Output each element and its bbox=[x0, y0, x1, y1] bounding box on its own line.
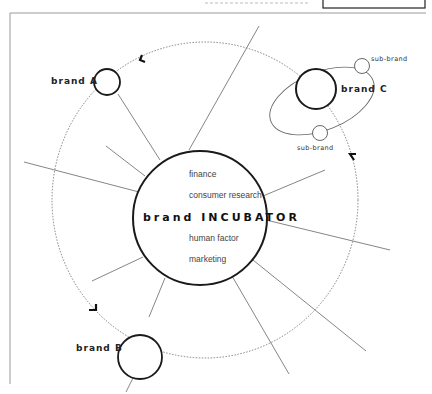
brand-c-label: brand C bbox=[341, 84, 388, 94]
incubator-item-human-factor: human factor bbox=[189, 233, 239, 243]
incubator-item-marketing: marketing bbox=[189, 254, 226, 264]
brand-b-label: brand B bbox=[76, 343, 123, 353]
sub-brand-label: sub-brand bbox=[371, 55, 408, 63]
brand-b-circle bbox=[118, 335, 162, 379]
brand-a-label: brand A bbox=[51, 76, 98, 86]
incubator-item-consumer-research: consumer research bbox=[189, 190, 262, 200]
incubator-title: brand INCUBATOR bbox=[143, 211, 300, 224]
arrow-marker-icon bbox=[350, 154, 356, 160]
arrow-marker-icon bbox=[89, 304, 96, 310]
header-box bbox=[323, 0, 425, 8]
incubator-item-finance: finance bbox=[189, 169, 216, 179]
brand-c-circle bbox=[296, 69, 336, 109]
sub-brand-label: sub-brand bbox=[297, 144, 334, 152]
sub-brand-circle bbox=[355, 59, 370, 74]
sub-brand-circle bbox=[313, 126, 328, 141]
arrow-marker-icon bbox=[140, 55, 145, 62]
